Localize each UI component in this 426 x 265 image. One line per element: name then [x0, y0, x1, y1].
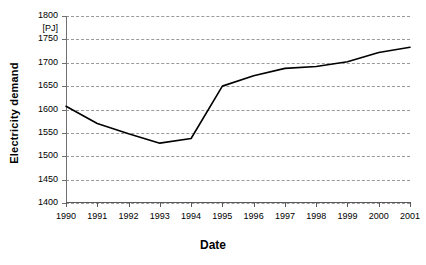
x-axis-tick — [410, 202, 411, 207]
y-axis-tick-label: 1750 — [18, 34, 58, 43]
y-axis-unit-label: [PJ] — [18, 24, 58, 33]
y-axis-tick-label: 1500 — [18, 151, 58, 160]
y-axis-tick-label: 1400 — [18, 198, 58, 207]
y-axis-tick-label: 1800 — [18, 11, 58, 20]
x-axis-tick-label: 2001 — [390, 212, 426, 221]
plot-area — [66, 16, 410, 203]
y-axis-tick-label: 1650 — [18, 81, 58, 90]
x-axis-title: Date — [0, 238, 426, 252]
chart-figure: Electricity demand [PJ] 1400145015001550… — [0, 0, 426, 265]
y-axis-tick-label: 1700 — [18, 58, 58, 67]
gridline — [66, 203, 410, 204]
y-axis-tick-label: 1600 — [18, 105, 58, 114]
y-axis-tick-label: 1450 — [18, 175, 58, 184]
data-series-line — [66, 16, 410, 203]
y-axis-tick-label: 1550 — [18, 128, 58, 137]
